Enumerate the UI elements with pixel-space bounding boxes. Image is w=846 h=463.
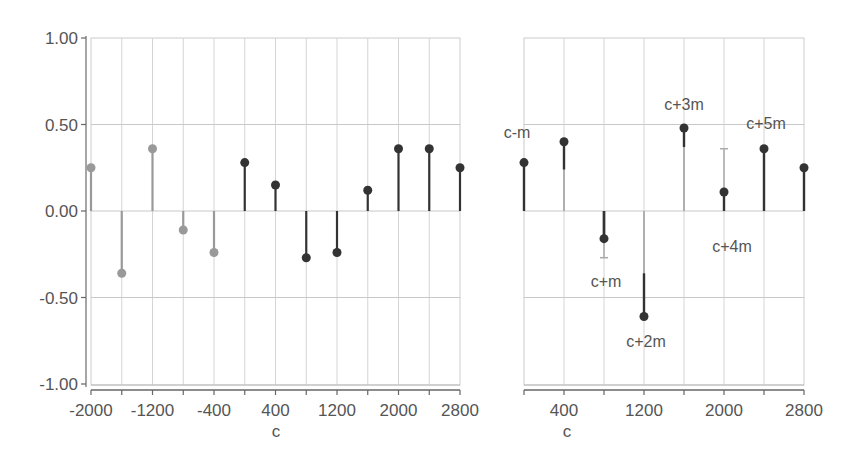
stem-marker bbox=[302, 253, 311, 262]
data-annotation: c+m bbox=[591, 273, 622, 290]
stem-marker bbox=[179, 226, 188, 235]
stem-marker bbox=[240, 158, 249, 167]
data-annotation: c+4m bbox=[712, 238, 752, 255]
stem-marker bbox=[425, 144, 434, 153]
x-tick-label: 2800 bbox=[441, 401, 479, 420]
x-tick-label: 1200 bbox=[318, 401, 356, 420]
x-tick-label: -1200 bbox=[131, 401, 174, 420]
y-tick-label: 1.00 bbox=[45, 29, 78, 48]
right-stem-chart: 400120020002800cc-mc+mc+2mc+3mc+4mc+5m bbox=[504, 38, 823, 441]
stem-marker bbox=[271, 181, 280, 190]
stem-marker bbox=[87, 163, 96, 172]
y-tick-label: -0.50 bbox=[39, 289, 78, 308]
stem-marker bbox=[363, 186, 372, 195]
data-annotation: c+2m bbox=[626, 333, 666, 350]
stem-marker bbox=[210, 248, 219, 257]
x-tick-label: -400 bbox=[197, 401, 231, 420]
x-axis-title: c bbox=[272, 422, 281, 441]
stem-marker bbox=[394, 144, 403, 153]
x-tick-label: 2800 bbox=[785, 401, 823, 420]
stem-marker bbox=[117, 269, 126, 278]
stem-marker bbox=[680, 123, 689, 132]
x-tick-label: 2000 bbox=[705, 401, 743, 420]
x-axis-title: c bbox=[563, 422, 572, 441]
stem-marker bbox=[333, 248, 342, 257]
stem-marker bbox=[800, 163, 809, 172]
x-tick-label: -2000 bbox=[69, 401, 112, 420]
y-tick-label: 0.00 bbox=[45, 202, 78, 221]
stem-marker bbox=[600, 234, 609, 243]
stem-marker bbox=[456, 163, 465, 172]
data-annotation: c-m bbox=[504, 124, 531, 141]
left-stem-chart: 1.000.500.00-0.50-1.00-2000-1200-4004001… bbox=[39, 29, 479, 441]
stem-marker bbox=[760, 144, 769, 153]
x-tick-label: 2000 bbox=[380, 401, 418, 420]
y-tick-label: 0.50 bbox=[45, 116, 78, 135]
data-annotation: c+3m bbox=[664, 96, 704, 113]
x-tick-label: 400 bbox=[550, 401, 578, 420]
stem-marker bbox=[720, 187, 729, 196]
x-tick-label: 400 bbox=[261, 401, 289, 420]
x-tick-label: 1200 bbox=[625, 401, 663, 420]
stem-marker bbox=[148, 144, 157, 153]
stem-marker bbox=[520, 158, 529, 167]
stem-marker bbox=[640, 312, 649, 321]
chart-canvas: 1.000.500.00-0.50-1.00-2000-1200-4004001… bbox=[0, 0, 846, 463]
data-annotation: c+5m bbox=[746, 115, 786, 132]
stem-marker bbox=[560, 137, 569, 146]
y-tick-label: -1.00 bbox=[39, 375, 78, 394]
